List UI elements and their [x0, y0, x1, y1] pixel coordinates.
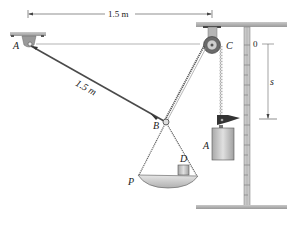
label-A-weight: A	[202, 140, 210, 151]
floor	[196, 205, 287, 209]
label-cable-AB: 1.5 m	[74, 77, 99, 97]
scale-zero-label: 0	[253, 39, 258, 49]
label-s: s	[270, 76, 274, 87]
ring-B	[163, 119, 169, 125]
scale-pan	[138, 175, 198, 188]
label-D: D	[179, 153, 188, 164]
dimension-horizontal-label: 1.5 m	[108, 9, 129, 19]
dimension-horizontal: 1.5 m	[28, 9, 212, 19]
label-C: C	[226, 40, 233, 51]
scale-pole	[244, 27, 250, 207]
pulley-scale-diagram: 1.5 m A 1.5 m C A	[0, 0, 287, 225]
pan-chain-left	[139, 124, 165, 175]
cable-CB	[165, 46, 204, 120]
block-D	[178, 165, 189, 175]
label-B: B	[153, 120, 159, 131]
label-A-support: A	[12, 40, 20, 51]
dimension-s	[259, 44, 277, 119]
weight-A	[212, 128, 234, 160]
pointer-flag	[217, 115, 240, 125]
pulley-C	[203, 26, 221, 54]
label-P: P	[127, 176, 134, 187]
chain-to-weight	[220, 46, 223, 116]
cable-AB	[31, 46, 164, 121]
